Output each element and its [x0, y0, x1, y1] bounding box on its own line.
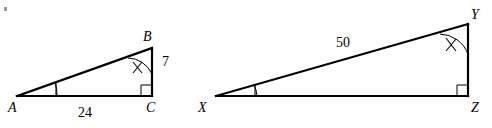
side-length-ac: 24: [78, 105, 92, 120]
vertex-label-x: X: [197, 100, 207, 115]
right-angle-mark-c: [141, 85, 152, 96]
right-angle-mark-z: [457, 85, 468, 96]
vertex-label-y: Y: [471, 7, 481, 22]
vertex-label-a: A: [7, 100, 17, 115]
geometry-figure: A B C 24 7 X Y Z: [0, 0, 492, 128]
angle-arc-b: [128, 58, 152, 74]
angle-arc-y: [440, 34, 468, 54]
scan-speck: [4, 7, 7, 11]
vertex-label-b: B: [143, 29, 152, 44]
side-length-xy: 50: [336, 35, 350, 50]
triangle-xyz: X Y Z 50: [197, 7, 481, 115]
figure-canvas: A B C 24 7 X Y Z: [0, 0, 492, 128]
triangle-abc: A B C 24 7: [7, 29, 169, 120]
vertex-label-c: C: [146, 100, 156, 115]
segment-ab: [17, 48, 152, 96]
side-length-bc: 7: [162, 54, 169, 69]
vertex-label-z: Z: [471, 100, 479, 115]
